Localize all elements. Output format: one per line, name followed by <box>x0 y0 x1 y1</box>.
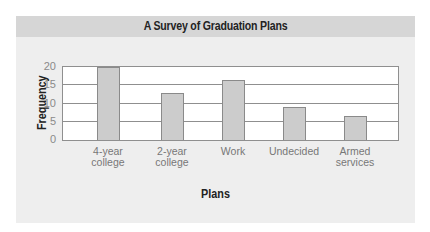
x-tick-label: Work <box>203 146 263 157</box>
y-tick-label: 0 <box>34 134 56 145</box>
y-tick-label: 20 <box>34 61 56 72</box>
x-axis-label: Plans <box>36 187 395 201</box>
y-tick-label: 5 <box>34 116 56 127</box>
x-tick-label: Armedservices <box>325 146 385 168</box>
chart-title: A Survey of Graduation Plans <box>40 16 391 37</box>
bar <box>283 107 306 140</box>
y-tick-label: 15 <box>34 79 56 90</box>
bar <box>344 116 367 140</box>
plot-area <box>62 66 399 141</box>
bar <box>222 80 245 140</box>
x-tick-label: 2-yearcollege <box>142 146 202 168</box>
bar <box>161 93 184 140</box>
bar <box>97 67 120 140</box>
chart-panel: A Survey of Graduation Plans Frequency 0… <box>16 16 415 223</box>
x-tick-label: 4-yearcollege <box>78 146 138 168</box>
y-tick-label: 10 <box>34 98 56 109</box>
x-tick-label: Undecided <box>264 146 324 157</box>
